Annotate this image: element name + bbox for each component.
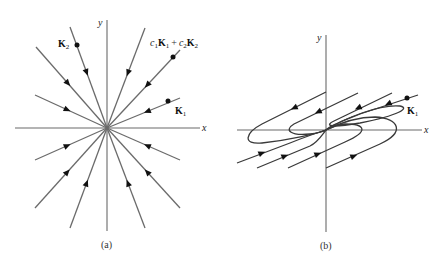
flow-arrow: [83, 180, 89, 188]
k1-point-a: [166, 99, 171, 104]
flow-arrow: [385, 100, 393, 106]
combo-label: c1K1+c2K2: [150, 37, 199, 50]
trajectory-ray: [70, 27, 107, 128]
trajectory-curve: [248, 92, 326, 143]
combo-point: [171, 55, 176, 60]
panel-b-degenerate-node: x y K1 (b): [237, 32, 429, 252]
phase-portrait-figure: x y K2 K1 c1K1+c2K2 (a) x y K1 (b): [0, 0, 445, 264]
caption-a: (a): [101, 239, 112, 251]
flow-arrow: [144, 107, 152, 113]
trajectory-ray: [35, 128, 107, 160]
y-axis-label-a: y: [97, 17, 103, 28]
k1-label-b: K1: [407, 105, 419, 118]
caption-b: (b): [320, 240, 332, 252]
trajectory-curve: [326, 117, 396, 168]
y-axis-label-b: y: [316, 32, 322, 43]
trajectory-ray: [107, 128, 145, 228]
k1-point-b: [405, 96, 410, 101]
panel-a-star-node: x y K2 K1 c1K1+c2K2 (a): [15, 17, 207, 251]
trajectory-ray: [36, 47, 107, 128]
flow-arrow: [126, 69, 132, 77]
trajectory-ray: [35, 128, 107, 208]
k2-point: [75, 43, 80, 48]
trajectory-curve: [257, 130, 326, 168]
trajectory-ray: [107, 28, 145, 128]
trajectory-ray: [107, 128, 180, 208]
flow-arrow: [126, 180, 132, 188]
trajectory-ray: [107, 50, 180, 128]
flow-arrow: [355, 104, 363, 110]
trajectory-ray: [70, 128, 107, 228]
x-axis-label-a: x: [201, 122, 207, 133]
k1-label-a: K1: [175, 105, 187, 118]
k2-label: K2: [58, 38, 70, 51]
x-axis-label-b: x: [423, 124, 429, 135]
flow-arrow: [83, 68, 89, 76]
